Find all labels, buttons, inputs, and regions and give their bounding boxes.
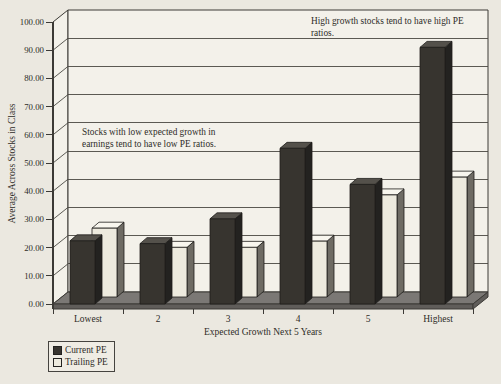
y-tick-label-90: 90.00 xyxy=(24,45,44,55)
y-tick-label-50: 50.00 xyxy=(24,158,44,168)
legend-item-current-pe: Current PE xyxy=(53,344,108,356)
legend-item-trailing-pe: Trailing PE xyxy=(53,356,108,368)
x-axis-title: Expected Growth Next 5 Years xyxy=(53,327,473,337)
bar-current-pe-4 xyxy=(280,148,305,304)
current-pe-swatch-icon xyxy=(53,346,62,355)
y-axis-title: Average Across Stocks in Class xyxy=(7,84,20,244)
trailing-pe-swatch-icon xyxy=(53,358,62,367)
chart-figure: 0.0010.0020.0030.0040.0050.0060.0070.008… xyxy=(0,0,501,384)
bar-current-pe-5-side xyxy=(375,178,382,304)
bar-current-pe-5 xyxy=(350,184,375,304)
bar-current-pe-2 xyxy=(140,244,165,304)
x-category-label-5: 5 xyxy=(366,314,371,324)
bar-current-pe-highest xyxy=(420,47,445,304)
bar-trailing-pe-2-side xyxy=(187,241,194,297)
x-category-label-4: 4 xyxy=(296,314,301,324)
y-tick-label-10: 10.00 xyxy=(24,271,44,281)
y-tick-label-70: 70.00 xyxy=(24,102,44,112)
y-tick-label-80: 80.00 xyxy=(24,73,44,83)
annotation-high-growth: High growth stocks tend to have high PE … xyxy=(311,15,486,40)
bar-current-pe-highest-side xyxy=(445,41,452,304)
y-tick-label-100: 100.00 xyxy=(20,17,45,27)
x-category-label-3: 3 xyxy=(226,314,231,324)
bar-trailing-pe-lowest-side xyxy=(117,222,124,297)
floor-front-edge xyxy=(53,304,473,309)
bar-trailing-pe-5-side xyxy=(397,189,404,297)
x-category-label-2: 2 xyxy=(156,314,161,324)
legend-label-current-pe: Current PE xyxy=(65,345,107,355)
y-tick-label-30: 30.00 xyxy=(24,214,44,224)
bar-current-pe-3 xyxy=(210,219,235,304)
bar-current-pe-2-side xyxy=(165,238,172,304)
legend: Current PE Trailing PE xyxy=(48,341,115,372)
bar-current-pe-lowest-side xyxy=(95,235,102,304)
bar-trailing-pe-4-side xyxy=(327,235,334,297)
y-tick-label-20: 20.00 xyxy=(24,243,44,253)
x-category-label-highest: Highest xyxy=(423,314,453,324)
bar-current-pe-4-side xyxy=(305,142,312,304)
y-tick-label-0: 0.00 xyxy=(29,299,45,309)
y-tick-label-40: 40.00 xyxy=(24,186,44,196)
bar-trailing-pe-highest-side xyxy=(467,171,474,297)
x-category-label-lowest: Lowest xyxy=(74,314,102,324)
legend-label-trailing-pe: Trailing PE xyxy=(65,357,108,367)
annotation-low-growth: Stocks with low expected growth in earni… xyxy=(82,126,222,151)
y-tick-label-60: 60.00 xyxy=(24,130,44,140)
bar-current-pe-3-side xyxy=(235,213,242,304)
bar-current-pe-lowest xyxy=(70,241,95,304)
bar-trailing-pe-3-side xyxy=(257,241,264,297)
